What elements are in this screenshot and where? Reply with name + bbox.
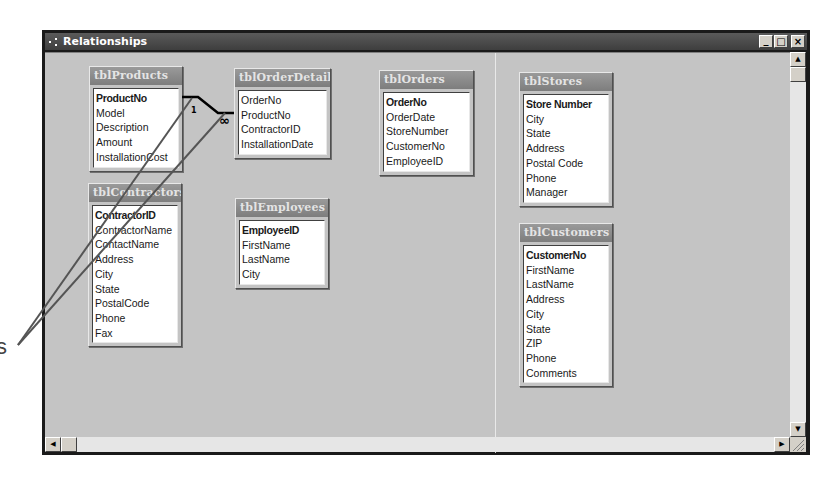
field[interactable]: InstallationDate <box>241 137 326 152</box>
field[interactable]: State <box>95 282 177 297</box>
table-tblOrderDetails[interactable]: tblOrderDetails OrderNo ProductNo Contra… <box>234 68 331 159</box>
relationship-one-label: 1 <box>191 106 197 115</box>
title-bar[interactable]: Relationships _ □ × <box>45 33 807 50</box>
table-title[interactable]: tblEmployees <box>236 199 328 217</box>
maximize-button[interactable]: □ <box>774 35 788 48</box>
resize-grip-icon <box>790 437 806 452</box>
table-title[interactable]: tblProducts <box>90 67 182 85</box>
field[interactable]: City <box>242 267 324 282</box>
field-list: ProductNo Model Description Amount Insta… <box>93 88 179 168</box>
field[interactable]: City <box>526 307 608 322</box>
field[interactable]: LastName <box>526 277 608 292</box>
scroll-down-button[interactable]: ▼ <box>790 422 806 437</box>
divider <box>495 53 496 453</box>
horizontal-scroll-thumb[interactable] <box>61 437 77 452</box>
arrow-up-icon: ▲ <box>795 55 800 63</box>
table-title[interactable]: tblCustomers <box>520 224 612 242</box>
field[interactable]: Phone <box>95 311 177 326</box>
field-list: CustomerNo FirstName LastName Address Ci… <box>523 245 609 383</box>
field[interactable]: Postal Code <box>526 156 608 171</box>
field[interactable]: Address <box>526 292 608 307</box>
field-list: OrderNo ProductNo ContractorID Installat… <box>238 90 327 155</box>
field[interactable]: FirstName <box>526 263 608 278</box>
table-title[interactable]: tblOrders <box>380 71 473 89</box>
field[interactable]: Description <box>96 120 178 135</box>
field[interactable]: Address <box>95 252 177 267</box>
close-button[interactable]: × <box>791 35 805 48</box>
field[interactable]: OrderDate <box>386 110 469 125</box>
field[interactable]: Manager <box>526 185 608 200</box>
table-title[interactable]: tblOrderDetails <box>235 69 330 87</box>
field[interactable]: OrderNo <box>241 93 326 108</box>
resize-grip[interactable] <box>790 437 806 452</box>
table-tblStores[interactable]: tblStores Store Number City State Addres… <box>519 72 613 207</box>
field[interactable]: PostalCode <box>95 296 177 311</box>
relationships-window: Relationships _ □ × tblProducts ProductN… <box>42 30 810 455</box>
table-title[interactable]: tblStores <box>520 73 612 91</box>
table-tblEmployees[interactable]: tblEmployees EmployeeID FirstName LastNa… <box>235 198 329 289</box>
vertical-scroll-thumb[interactable] <box>790 67 806 82</box>
field[interactable]: City <box>95 267 177 282</box>
scroll-right-button[interactable]: ▶ <box>774 437 790 452</box>
field[interactable]: ContactName <box>95 237 177 252</box>
field[interactable]: Phone <box>526 171 608 186</box>
field-primary-key[interactable]: ContractorID <box>95 208 177 223</box>
callout-label: s <box>0 334 7 360</box>
scroll-left-button[interactable]: ◀ <box>45 437 61 452</box>
field[interactable]: EmployeeID <box>386 154 469 169</box>
field[interactable]: ContractorID <box>241 122 326 137</box>
window-title: Relationships <box>63 33 147 50</box>
field[interactable]: CustomerNo <box>386 139 469 154</box>
field[interactable]: State <box>526 322 608 337</box>
field[interactable]: State <box>526 126 608 141</box>
table-tblCustomers[interactable]: tblCustomers CustomerNo FirstName LastNa… <box>519 223 613 387</box>
field[interactable]: ContractorName <box>95 223 177 238</box>
field[interactable]: LastName <box>242 252 324 267</box>
minimize-icon: _ <box>764 34 769 45</box>
table-title[interactable]: tblContractors <box>89 184 181 202</box>
window-controls: _ □ × <box>759 35 805 48</box>
relationships-icon[interactable] <box>49 38 59 46</box>
field[interactable]: Comments <box>526 366 608 381</box>
field-list: EmployeeID FirstName LastName City <box>239 220 325 285</box>
scroll-up-button[interactable]: ▲ <box>790 52 806 67</box>
relationships-canvas[interactable]: tblProducts ProductNo Model Description … <box>45 52 790 438</box>
minimize-button[interactable]: _ <box>759 35 773 48</box>
close-icon: × <box>794 36 802 47</box>
field-list: Store Number City State Address Postal C… <box>523 94 609 203</box>
table-tblContractors[interactable]: tblContractors ContractorID ContractorNa… <box>88 183 182 347</box>
field[interactable]: ProductNo <box>241 108 326 123</box>
field[interactable]: FirstName <box>242 238 324 253</box>
relationship-many-label: ∞ <box>219 115 230 127</box>
field[interactable]: InstallationCost <box>96 150 178 165</box>
arrow-left-icon: ◀ <box>50 440 55 448</box>
vertical-scrollbar[interactable]: ▲ ▼ <box>790 52 806 437</box>
field[interactable]: Phone <box>526 351 608 366</box>
field-primary-key[interactable]: CustomerNo <box>526 248 608 263</box>
horizontal-scrollbar[interactable]: ◀ ▶ <box>45 437 790 452</box>
field[interactable]: Address <box>526 141 608 156</box>
field[interactable]: StoreNumber <box>386 124 469 139</box>
field-primary-key[interactable]: EmployeeID <box>242 223 324 238</box>
arrow-down-icon: ▼ <box>795 425 800 433</box>
field[interactable]: Fax <box>95 326 177 341</box>
field[interactable]: Amount <box>96 135 178 150</box>
field-primary-key[interactable]: OrderNo <box>386 95 469 110</box>
field[interactable]: City <box>526 112 608 127</box>
field[interactable]: Model <box>96 106 178 121</box>
table-tblProducts[interactable]: tblProducts ProductNo Model Description … <box>89 66 183 172</box>
arrow-right-icon: ▶ <box>779 440 784 448</box>
maximize-icon: □ <box>776 36 785 47</box>
field[interactable]: ZIP <box>526 336 608 351</box>
table-tblOrders[interactable]: tblOrders OrderNo OrderDate StoreNumber … <box>379 70 474 176</box>
field-primary-key[interactable]: Store Number <box>526 97 608 112</box>
field-list: OrderNo OrderDate StoreNumber CustomerNo… <box>383 92 470 172</box>
field-primary-key[interactable]: ProductNo <box>96 91 178 106</box>
field-list: ContractorID ContractorName ContactName … <box>92 205 178 343</box>
